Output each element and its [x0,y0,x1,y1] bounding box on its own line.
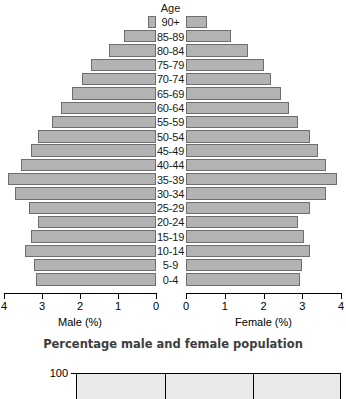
pyramid-row: 40-44 [0,158,346,172]
next-chart-divider [165,374,166,399]
male-bar [38,130,156,142]
male-bar [31,230,156,242]
next-chart-panel [76,374,341,399]
axis-tick [80,293,81,299]
population-pyramid-chart: Age 0-45-910-1415-1920-2425-2930-3435-39… [0,0,346,300]
axis-tick-label: 4 [1,300,7,312]
age-band-label: 65-69 [155,87,186,101]
female-bar [186,44,248,56]
female-tick-labels: 01234 [186,300,341,314]
pyramid-row: 0-4 [0,273,346,287]
axis-tick-label: 4 [338,300,344,312]
male-tick-labels: 43210 [4,300,156,314]
female-bar [186,245,310,257]
pyramid-row: 15-19 [0,230,346,244]
male-axis-title: Male (%) [4,315,156,329]
male-bar [82,73,156,85]
female-bar [186,144,318,156]
age-band-label: 45-49 [155,144,186,158]
age-band-label: 40-44 [155,158,186,172]
age-axis-header: Age [155,1,186,15]
male-bar [15,187,156,199]
male-bar [29,202,156,214]
age-band-label: 10-14 [155,244,186,258]
male-bar [38,216,156,228]
axis-tick [42,293,43,299]
pyramid-row: 60-64 [0,101,346,115]
male-bar [34,259,156,271]
pyramid-row: 50-54 [0,130,346,144]
chart-caption: Percentage male and female population [0,336,346,352]
male-bar [52,116,157,128]
female-axis [186,293,341,299]
female-bar [186,73,271,85]
axis-tick-label: 3 [299,300,305,312]
female-bar [186,259,302,271]
axis-tick [186,293,187,299]
pyramid-row: 65-69 [0,87,346,101]
male-bar [31,144,156,156]
female-bar [186,187,326,199]
pyramid-row: 25-29 [0,201,346,215]
female-axis-title: Female (%) [186,315,341,329]
male-bar [8,173,156,185]
axis-tick [156,293,157,299]
axis-tick-label: 0 [153,300,159,312]
female-bar [186,59,264,71]
age-band-label: 15-19 [155,230,186,244]
age-band-label: 50-54 [155,130,186,144]
age-band-label: 80-84 [155,44,186,58]
axis-tick-label: 0 [183,300,189,312]
age-band-label: 75-79 [155,58,186,72]
female-bar [186,130,310,142]
female-bar [186,230,304,242]
male-bar [72,87,156,99]
axis-tick [118,293,119,299]
axis-tick-label: 1 [222,300,228,312]
pyramid-row: 70-74 [0,72,346,86]
age-band-label: 20-24 [155,215,186,229]
female-bar [186,173,337,185]
axis-tick-label: 2 [77,300,83,312]
pyramid-row: 30-34 [0,187,346,201]
male-bar [91,59,156,71]
male-bar [124,30,156,42]
pyramid-row: 35-39 [0,173,346,187]
axis-tick-label: 2 [260,300,266,312]
female-bar [186,202,310,214]
male-bar [36,273,156,285]
age-band-label: 0-4 [155,273,186,287]
axis-tick [302,293,303,299]
axis-tick-label: 1 [115,300,121,312]
age-band-label: 60-64 [155,101,186,115]
male-bar [109,44,157,56]
female-bar [186,116,298,128]
female-bar [186,16,207,28]
pyramid-row: 75-79 [0,58,346,72]
age-band-label: 25-29 [155,201,186,215]
pyramid-row: 5-9 [0,258,346,272]
axis-tick [264,293,265,299]
axis-tick [341,293,342,299]
female-bar [186,159,326,171]
female-bar [186,216,298,228]
pyramid-row: 45-49 [0,144,346,158]
female-bar [186,273,300,285]
age-band-label: 35-39 [155,173,186,187]
pyramid-row: 55-59 [0,115,346,129]
pyramid-row: 90+ [0,15,346,29]
next-chart-divider [253,374,254,399]
male-axis [4,293,156,299]
age-band-label: 70-74 [155,72,186,86]
age-band-label: 30-34 [155,187,186,201]
axis-tick-label: 3 [39,300,45,312]
axis-tick [4,293,5,299]
male-bar [25,245,156,257]
pyramid-row: 85-89 [0,30,346,44]
next-chart-preview: 100 [0,366,346,399]
pyramid-row: 10-14 [0,244,346,258]
next-chart-y-label: 100 [38,367,68,380]
female-bar [186,87,281,99]
axis-tick [225,293,226,299]
pyramid-row: 80-84 [0,44,346,58]
